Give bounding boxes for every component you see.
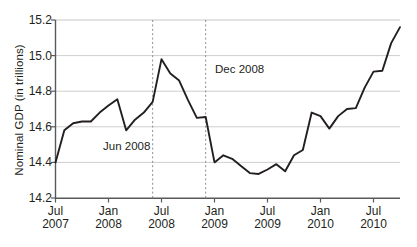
x-tick-year: 2009 <box>185 218 245 231</box>
x-tick-month: Jan <box>99 204 118 218</box>
x-tick-year: 2010 <box>291 218 351 231</box>
x-tick-year: 2010 <box>344 218 404 231</box>
x-tick-month: Jul <box>48 204 63 218</box>
x-tick-month: Jul <box>260 204 275 218</box>
x-tick-month: Jul <box>366 204 381 218</box>
x-tick-label-jul-2009: Jul2009 <box>238 205 298 231</box>
x-tick-year: 2007 <box>26 218 86 231</box>
annotation-dec-2008: Dec 2008 <box>215 63 264 75</box>
x-tick-label-jan-2010: Jan2010 <box>291 205 351 231</box>
x-tick-month: Jan <box>205 204 224 218</box>
x-tick-label-jul-2007: Jul2007 <box>26 205 86 231</box>
chart-figure: Nominal GDP (in trillions) 14.2 14.4 14.… <box>0 0 417 247</box>
x-tick-year: 2009 <box>238 218 298 231</box>
x-tick-month: Jul <box>154 204 169 218</box>
x-tick-year: 2008 <box>132 218 192 231</box>
x-tick-label-jul-2008: Jul2008 <box>132 205 192 231</box>
x-tick-label-jan-2008: Jan2008 <box>79 205 139 231</box>
annotation-marker-lines <box>153 20 206 198</box>
x-tick-month: Jan <box>311 204 330 218</box>
x-tick-label-jul-2010: Jul2010 <box>344 205 404 231</box>
x-tick-year: 2008 <box>79 218 139 231</box>
annotation-jun-2008: Jun 2008 <box>103 140 150 152</box>
x-tick-label-jan-2009: Jan2009 <box>185 205 245 231</box>
